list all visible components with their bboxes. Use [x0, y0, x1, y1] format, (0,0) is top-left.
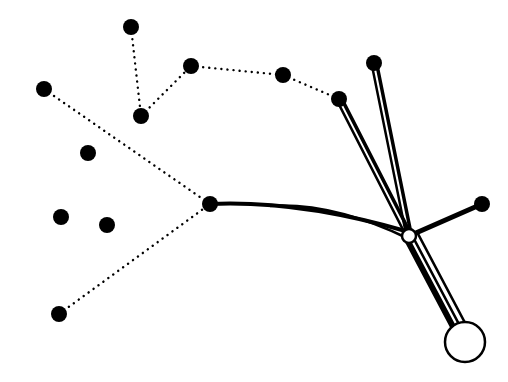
graph-node	[99, 217, 115, 233]
nodes	[36, 19, 490, 362]
dotted-edge	[141, 66, 191, 116]
dotted-edge	[131, 27, 141, 116]
hub-node	[402, 229, 416, 243]
solid-edge	[270, 206, 409, 239]
root-node	[445, 322, 485, 362]
graph-node	[331, 91, 347, 107]
graph-node	[80, 145, 96, 161]
dotted-edge	[59, 204, 210, 314]
graph-node	[275, 67, 291, 83]
graph-node	[202, 196, 218, 212]
solid-edge	[341, 98, 411, 235]
graph-node	[183, 58, 199, 74]
dotted-edge	[44, 89, 210, 204]
dotted-edge	[191, 66, 283, 75]
graph-node	[123, 19, 139, 35]
graph-node	[53, 209, 69, 225]
solid-edges	[210, 63, 482, 344]
graph-node	[366, 55, 382, 71]
graph-node	[51, 306, 67, 322]
network-diagram	[0, 0, 508, 382]
dotted-edge	[283, 75, 339, 99]
graph-node	[133, 108, 149, 124]
solid-edge	[372, 63, 407, 236]
graph-node	[36, 81, 52, 97]
graph-node	[474, 196, 490, 212]
solid-edge	[409, 204, 482, 236]
